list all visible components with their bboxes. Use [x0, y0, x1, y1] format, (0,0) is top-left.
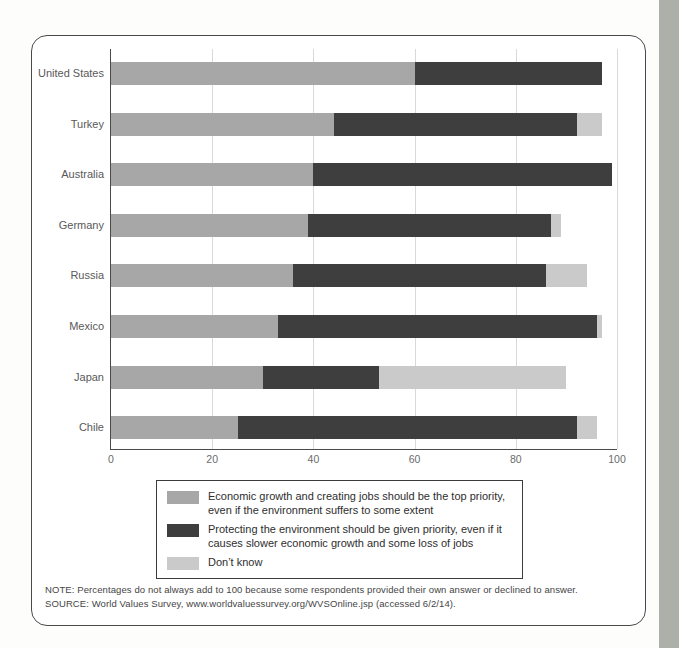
chart-card: United StatesTurkeyAustraliaGermanyRussi… [31, 35, 646, 626]
bar-segment [308, 214, 551, 237]
x-tick-label: 20 [206, 453, 218, 465]
bar-segment [379, 366, 566, 389]
chart-notes: NOTE: Percentages do not always add to 1… [45, 583, 631, 611]
gridline-x-20 [212, 49, 213, 449]
bar-row: Turkey [111, 113, 617, 136]
plot-area: United StatesTurkeyAustraliaGermanyRussi… [110, 49, 617, 450]
bar-segment [263, 366, 379, 389]
gridline-x-100 [617, 49, 618, 449]
bar-segment [551, 214, 561, 237]
category-label: Australia [28, 163, 104, 186]
bar-segment [334, 113, 577, 136]
legend-label: Don’t know [208, 556, 262, 570]
category-label: Mexico [28, 315, 104, 338]
x-tick-label: 80 [510, 453, 522, 465]
bar-segment [546, 264, 586, 287]
bar-row: Germany [111, 214, 617, 237]
bar-segment [111, 163, 313, 186]
legend-swatch [167, 557, 199, 570]
category-label: Chile [28, 416, 104, 439]
x-tick-label: 100 [608, 453, 626, 465]
x-tick-label: 0 [108, 453, 114, 465]
legend-item: Don’t know [167, 556, 512, 570]
note-text: NOTE: Percentages do not always add to 1… [45, 583, 631, 597]
bar-segment [415, 62, 602, 85]
legend-swatch [167, 524, 199, 537]
x-tick-label: 40 [308, 453, 320, 465]
category-label: Russia [28, 264, 104, 287]
bar-segment [111, 416, 238, 439]
bar-segment [111, 366, 263, 389]
legend-item: Protecting the environment should be giv… [167, 523, 512, 550]
category-label: Turkey [28, 113, 104, 136]
bar-segment [278, 315, 597, 338]
legend-label: Protecting the environment should be giv… [208, 523, 512, 550]
source-text: SOURCE: World Values Survey, www.worldva… [45, 597, 631, 611]
bar-segment [111, 315, 278, 338]
category-label: United States [28, 62, 104, 85]
bar-segment [111, 214, 308, 237]
page-edge-strip [659, 0, 679, 648]
category-label: Japan [28, 366, 104, 389]
category-label: Germany [28, 214, 104, 237]
bar-segment [111, 62, 415, 85]
bar-row: Mexico [111, 315, 617, 338]
legend-item: Economic growth and creating jobs should… [167, 490, 512, 517]
gridline-x-40 [313, 49, 314, 449]
gridline-x-60 [415, 49, 416, 449]
gridline-x-80 [516, 49, 517, 449]
bar-row: United States [111, 62, 617, 85]
bar-row: Russia [111, 264, 617, 287]
bar-segment [577, 416, 597, 439]
legend-swatch [167, 491, 199, 504]
bar-row: Chile [111, 416, 617, 439]
bar-segment [111, 264, 293, 287]
legend-label: Economic growth and creating jobs should… [208, 490, 512, 517]
bar-segment [577, 113, 602, 136]
legend: Economic growth and creating jobs should… [156, 480, 523, 579]
bar-segment [313, 163, 612, 186]
bar-segment [238, 416, 577, 439]
bar-row: Japan [111, 366, 617, 389]
bar-row: Australia [111, 163, 617, 186]
bar-segment [293, 264, 546, 287]
bar-segment [597, 315, 602, 338]
x-tick-label: 60 [409, 453, 421, 465]
bar-segment [111, 113, 334, 136]
